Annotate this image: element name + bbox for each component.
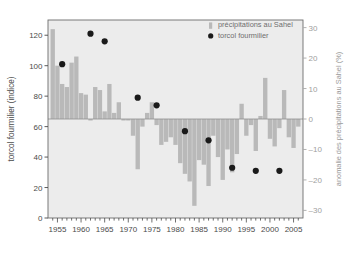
chart-figure: 020406080100120 3020100–10–20–30 1955196… xyxy=(0,0,357,260)
bar-2002 xyxy=(277,119,281,128)
legend-label-0: précipitations au Sahel xyxy=(218,20,293,29)
bar-1976 xyxy=(154,119,158,125)
left-tick-label-20: 20 xyxy=(34,184,43,193)
bar-2004 xyxy=(287,119,291,137)
x-tick-label-1975: 1975 xyxy=(143,225,161,234)
bar-1973 xyxy=(140,119,144,127)
data-point-1976 xyxy=(154,102,160,108)
bar-1995 xyxy=(244,119,248,136)
x-tick-label-1985: 1985 xyxy=(190,225,208,234)
bar-1983 xyxy=(187,119,191,181)
right-tick-label-20: 20 xyxy=(309,54,318,63)
right-tick-label--20: –20 xyxy=(309,176,323,185)
bar-1981 xyxy=(178,119,182,163)
legend-swatch-torcol xyxy=(208,33,213,38)
data-point-1956 xyxy=(59,61,65,67)
x-tick-label-1980: 1980 xyxy=(167,225,185,234)
legend-swatch-precipitations xyxy=(209,22,212,28)
data-point-1965 xyxy=(102,38,108,44)
left-tick-label-80: 80 xyxy=(34,92,43,101)
x-tick-label-1995: 1995 xyxy=(237,225,255,234)
bar-1992 xyxy=(230,119,234,172)
precipitation-bird-index-chart: 020406080100120 3020100–10–20–30 1955196… xyxy=(0,0,357,260)
right-tick-label-0: 0 xyxy=(309,115,314,124)
bar-1964 xyxy=(98,90,102,119)
bar-1956 xyxy=(60,84,64,119)
bar-2000 xyxy=(268,119,272,139)
x-tick-label-2005: 2005 xyxy=(285,225,303,234)
bar-1993 xyxy=(235,119,239,154)
bar-1977 xyxy=(159,119,163,145)
data-point-2002 xyxy=(276,168,282,174)
left-axis-title: torcol fourmilier (indice) xyxy=(7,76,16,161)
bar-2003 xyxy=(282,90,286,119)
left-tick-label-60: 60 xyxy=(34,123,43,132)
bar-1965 xyxy=(102,111,106,119)
bar-2006 xyxy=(296,119,300,127)
right-tick-label--10: –10 xyxy=(309,145,323,154)
bar-1991 xyxy=(225,119,229,149)
bar-1984 xyxy=(192,119,196,206)
left-tick-label-0: 0 xyxy=(38,214,43,223)
left-tick-label-120: 120 xyxy=(29,31,43,40)
bar-1958 xyxy=(69,63,73,119)
x-tick-label-2000: 2000 xyxy=(261,225,279,234)
bar-1972 xyxy=(136,119,140,169)
bar-1987 xyxy=(206,119,210,186)
x-tick-label-1960: 1960 xyxy=(72,225,90,234)
left-tick-label-100: 100 xyxy=(29,62,43,71)
bar-1966 xyxy=(107,84,111,119)
bar-1994 xyxy=(239,104,243,119)
bar-1978 xyxy=(164,119,168,142)
bar-1957 xyxy=(65,87,69,119)
x-tick-label-1955: 1955 xyxy=(49,225,67,234)
bar-2005 xyxy=(291,119,295,148)
right-tick-label-30: 30 xyxy=(309,24,318,33)
bar-1968 xyxy=(117,102,121,119)
bar-1974 xyxy=(145,113,149,119)
data-point-1987 xyxy=(205,137,211,143)
bar-1959 xyxy=(74,57,78,119)
bar-1989 xyxy=(216,119,220,157)
bar-2001 xyxy=(272,119,276,146)
data-point-1992 xyxy=(229,165,235,171)
bar-1982 xyxy=(183,119,187,174)
right-axis-title: anomalie des précipitations au Sahel (%) xyxy=(334,52,343,186)
x-tick-label-1965: 1965 xyxy=(96,225,114,234)
bar-1960 xyxy=(79,93,83,119)
right-tick-label-10: 10 xyxy=(309,85,318,94)
data-point-1972 xyxy=(135,95,141,101)
left-tick-label-40: 40 xyxy=(34,153,43,162)
bar-1988 xyxy=(211,119,215,136)
data-point-1962 xyxy=(87,31,93,37)
bar-1975 xyxy=(150,102,154,119)
bar-1996 xyxy=(249,119,253,125)
x-tick-label-1990: 1990 xyxy=(214,225,232,234)
legend-label-1: torcol fourmilier xyxy=(218,31,269,40)
bar-1967 xyxy=(112,113,116,119)
bar-1971 xyxy=(131,119,135,136)
bar-1997 xyxy=(254,119,258,151)
data-point-1997 xyxy=(253,168,259,174)
bar-1979 xyxy=(169,119,173,137)
right-tick-label--30: –30 xyxy=(309,206,323,215)
bar-1963 xyxy=(93,87,97,119)
bar-1961 xyxy=(84,95,88,119)
bar-1980 xyxy=(173,119,177,145)
bar-1985 xyxy=(197,119,201,160)
data-point-1982 xyxy=(182,128,188,134)
bar-1954 xyxy=(51,29,55,119)
bar-1990 xyxy=(221,119,225,180)
bar-1955 xyxy=(55,66,59,119)
bar-1986 xyxy=(202,119,206,165)
bar-1998 xyxy=(258,116,262,119)
bar-1999 xyxy=(263,78,267,119)
x-tick-label-1970: 1970 xyxy=(119,225,137,234)
